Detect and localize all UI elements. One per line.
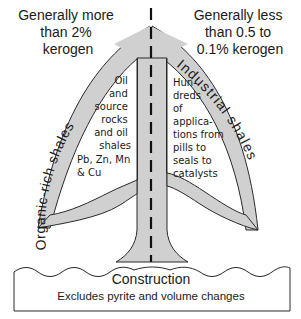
arrow-tree-shape	[38, 26, 258, 262]
top-left-label: Generally more than 2% kerogen	[18, 7, 118, 57]
metals-text: Pb, Zn, Mn & Cu	[77, 154, 133, 178]
construction-subtitle: Excludes pyrite and volume changes	[57, 290, 245, 302]
shale-uses-diagram: Generally more than 2% kerogen Generally…	[0, 0, 301, 319]
top-right-label: Generally less than 0.5 to 0.1% kerogen	[194, 7, 287, 57]
construction-title: Construction	[112, 271, 191, 287]
